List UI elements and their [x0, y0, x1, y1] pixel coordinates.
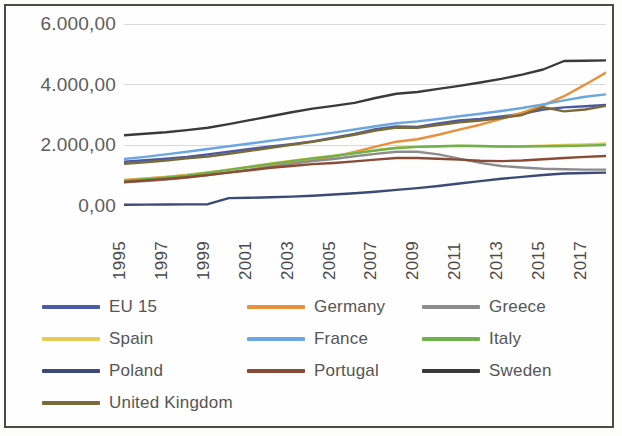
- legend-item[interactable]: EU 15: [42, 292, 157, 322]
- x-axis-tick-label: 2017: [571, 241, 591, 280]
- x-axis-tick-label: 2001: [236, 241, 256, 280]
- plot-area: [124, 24, 606, 206]
- legend-color-swatch: [42, 305, 100, 309]
- x-axis-tick-label: 2015: [529, 241, 549, 280]
- legend-color-swatch: [422, 305, 480, 309]
- y-axis-tick-label: 2.000,00: [12, 134, 116, 156]
- series-line: [124, 73, 606, 180]
- legend-color-swatch: [247, 369, 305, 373]
- x-axis-tick-label: 2013: [487, 241, 507, 280]
- legend-row: EU 15GermanyGreece: [42, 292, 602, 322]
- legend-color-swatch: [422, 369, 480, 373]
- legend-color-swatch: [42, 337, 100, 341]
- legend-label: Greece: [489, 297, 546, 317]
- legend-label: Sweden: [489, 361, 552, 381]
- legend-label: United Kingdom: [109, 393, 233, 413]
- legend-item[interactable]: Sweden: [422, 356, 552, 386]
- legend-color-swatch: [247, 305, 305, 309]
- legend-label: Italy: [489, 329, 521, 349]
- chart-frame: 0,002.000,004.000,006.000,00 19951997199…: [4, 4, 614, 428]
- legend-label: France: [314, 329, 368, 349]
- series-line: [124, 60, 606, 135]
- legend-color-swatch: [42, 369, 100, 373]
- y-axis-tick-label: 6.000,00: [12, 13, 116, 35]
- y-axis-labels: 0,002.000,004.000,006.000,00: [12, 6, 116, 206]
- x-axis-tick-label: 2005: [320, 241, 340, 280]
- legend-row: PolandPortugalSweden: [42, 356, 602, 386]
- x-axis-tick-label: 1997: [152, 241, 172, 280]
- x-axis-labels: 1995199719992001200320052007200920112013…: [124, 208, 606, 280]
- legend-item[interactable]: Portugal: [247, 356, 379, 386]
- legend-label: Spain: [109, 329, 153, 349]
- y-axis-tick-label: 0,00: [12, 195, 116, 217]
- y-axis-tick-label: 4.000,00: [12, 74, 116, 96]
- line-chart: 0,002.000,004.000,006.000,00 19951997199…: [6, 6, 612, 284]
- legend-label: Poland: [109, 361, 163, 381]
- plot-svg: [124, 24, 606, 206]
- x-axis-tick-label: 1999: [194, 241, 214, 280]
- x-axis-tick-label: 2003: [278, 241, 298, 280]
- legend-row: United Kingdom: [42, 388, 602, 418]
- legend-item[interactable]: France: [247, 324, 368, 354]
- legend-item[interactable]: Spain: [42, 324, 153, 354]
- x-axis-tick-label: 2009: [403, 241, 423, 280]
- legend-label: Portugal: [314, 361, 379, 381]
- legend-label: Germany: [314, 297, 385, 317]
- legend-color-swatch: [42, 401, 100, 405]
- legend-item[interactable]: United Kingdom: [42, 388, 233, 418]
- legend-item[interactable]: Italy: [422, 324, 521, 354]
- legend-label: EU 15: [109, 297, 157, 317]
- x-axis-tick-label: 2011: [445, 242, 465, 280]
- legend-color-swatch: [247, 337, 305, 341]
- chart-legend: EU 15GermanyGreeceSpainFranceItalyPoland…: [42, 292, 602, 422]
- legend-row: SpainFranceItaly: [42, 324, 602, 354]
- legend-item[interactable]: Germany: [247, 292, 385, 322]
- legend-item[interactable]: Greece: [422, 292, 546, 322]
- x-axis-tick-label: 2007: [361, 241, 381, 280]
- legend-item[interactable]: Poland: [42, 356, 163, 386]
- x-axis-tick-label: 1995: [110, 241, 130, 280]
- legend-color-swatch: [422, 337, 480, 341]
